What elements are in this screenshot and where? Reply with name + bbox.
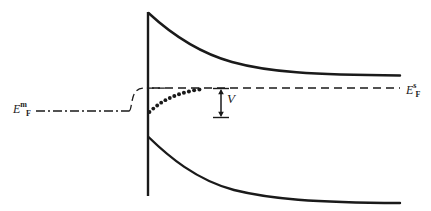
fermi-metal-label-superscript: m <box>20 100 27 109</box>
fermi-semiconductor-label: EsF <box>406 81 421 97</box>
fermi-semiconductor-label-superscript: s <box>413 81 416 90</box>
conduction-band-edge <box>149 13 401 76</box>
valence-band-edge <box>149 137 401 203</box>
quasi-fermi-level-dots <box>148 87 202 114</box>
bias-label: V <box>227 92 235 105</box>
energy-band-diagram-figure: EmF EsF V <box>0 0 431 211</box>
bias-arrow-head-up <box>218 89 224 94</box>
fermi-metal-label: EmF <box>13 100 32 116</box>
bias-arrow-head-down <box>218 112 224 117</box>
fermi-metal-label-subscript: F <box>26 109 31 118</box>
band-diagram-canvas <box>0 0 431 211</box>
fermi-semiconductor-label-subscript: F <box>415 90 420 99</box>
